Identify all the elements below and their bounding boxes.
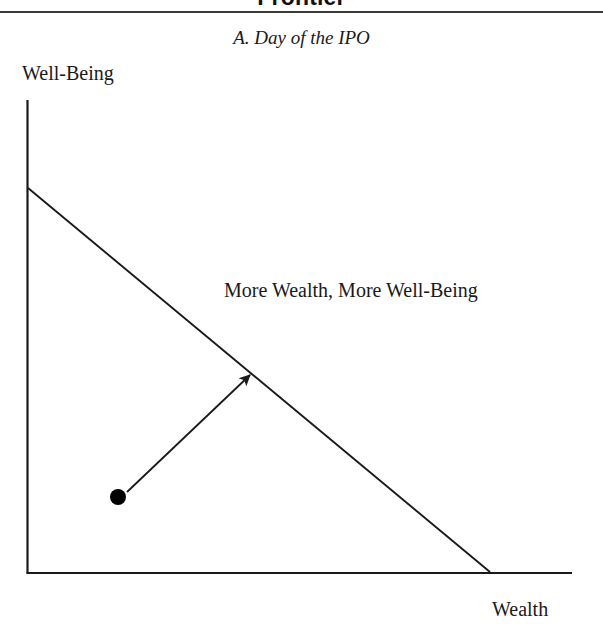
figure-root: Frontier A. Day of the IPO Well-Being We… [0, 0, 603, 635]
improvement-arrow [127, 375, 250, 492]
frontier-line [28, 188, 490, 572]
current-position-marker [110, 489, 126, 505]
plot-canvas [0, 0, 603, 635]
